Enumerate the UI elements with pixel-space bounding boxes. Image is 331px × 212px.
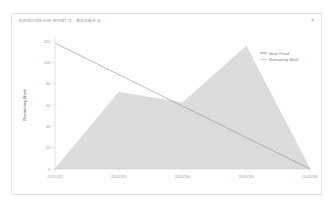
y-tick-label: 100 (44, 60, 51, 65)
x-tick-label: 2015/3/2 (47, 174, 63, 179)
close-icon[interactable]: × (309, 17, 316, 24)
y-tick-label: 20 (46, 145, 51, 150)
x-tick-label: 2015/3/3 (111, 174, 127, 179)
x-axis-ticks: 2015/3/22015/3/32015/3/42015/3/52015/3/6 (47, 169, 318, 179)
card-header: BURNDOWN FOR SPRINT 11 - 通訊功能改善 × (12, 14, 321, 29)
y-axis-title: Remaining Work (22, 88, 27, 120)
x-tick-label: 2015/3/5 (238, 174, 254, 179)
chart-plot-area: 020406080100120 2015/3/22015/3/32015/3/4… (12, 29, 321, 194)
x-tick-label: 2015/3/4 (175, 174, 191, 179)
burndown-chart-svg: 020406080100120 2015/3/22015/3/32015/3/4… (12, 29, 321, 194)
y-axis-ticks: 020406080100120 (44, 39, 55, 172)
y-tick-label: 40 (46, 124, 51, 129)
y-tick-label: 120 (44, 39, 51, 44)
chart-screenshot: BURNDOWN FOR SPRINT 11 - 通訊功能改善 × (0, 0, 331, 212)
chart-legend: Ideal TrendRemaining Work (260, 51, 299, 63)
burndown-chart-card: BURNDOWN FOR SPRINT 11 - 通訊功能改善 × (11, 13, 322, 195)
page-title: BURNDOWN FOR SPRINT 11 - 通訊功能改善 (19, 18, 315, 24)
legend-label[interactable]: Ideal Trend (269, 51, 289, 56)
series-remaining-work (55, 46, 310, 169)
y-tick-label: 60 (46, 103, 51, 108)
legend-label[interactable]: Remaining Work (269, 57, 299, 62)
y-tick-label: 0 (48, 167, 51, 172)
x-tick-label: 2015/3/6 (302, 174, 318, 179)
y-tick-label: 80 (46, 81, 51, 86)
